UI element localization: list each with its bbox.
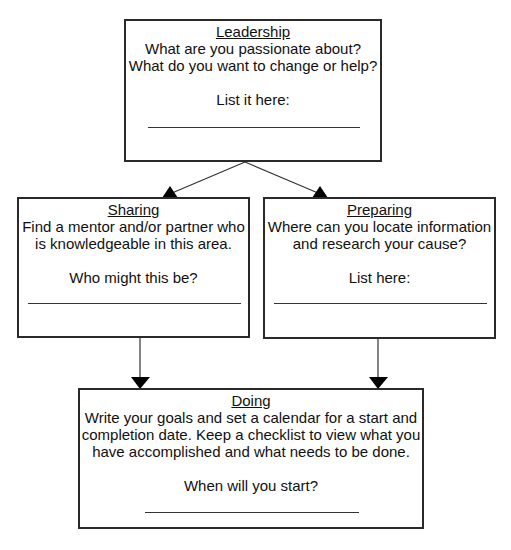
node-title: Doing <box>80 392 422 409</box>
node-body-line: completion date. Keep a checklist to vie… <box>80 426 422 443</box>
node-preparing: Preparing Where can you locate informati… <box>263 197 496 339</box>
node-body-line: Write your goals and set a calendar for … <box>80 409 422 426</box>
answer-blank-line[interactable] <box>145 512 359 513</box>
node-body-line: What are you passionate about? <box>126 40 380 57</box>
node-body-line: Where can you locate information <box>265 218 494 235</box>
edge-leadership-to-preparing <box>245 162 318 193</box>
edge-leadership-to-sharing <box>172 162 245 193</box>
node-prompt: Who might this be? <box>19 269 248 286</box>
node-body-line: and research your cause? <box>265 235 494 252</box>
node-title: Sharing <box>19 201 248 218</box>
node-sharing: Sharing Find a mentor and/or partner who… <box>17 197 250 338</box>
node-prompt: List it here: <box>126 91 380 108</box>
node-body-line: have accomplished and what needs to be d… <box>80 443 422 460</box>
node-body-line: What do you want to change or help? <box>126 57 380 74</box>
node-body-line: Find a mentor and/or partner who <box>19 218 248 235</box>
answer-blank-line[interactable] <box>274 303 487 304</box>
node-prompt: When will you start? <box>80 477 422 494</box>
answer-blank-line[interactable] <box>148 127 360 128</box>
node-title: Preparing <box>265 201 494 218</box>
node-doing: Doing Write your goals and set a calenda… <box>78 388 424 529</box>
answer-blank-line[interactable] <box>28 303 241 304</box>
node-prompt: List here: <box>265 269 494 286</box>
node-leadership: Leadership What are you passionate about… <box>124 19 382 162</box>
node-title: Leadership <box>126 23 380 40</box>
node-body-line: is knowledgeable in this area. <box>19 235 248 252</box>
